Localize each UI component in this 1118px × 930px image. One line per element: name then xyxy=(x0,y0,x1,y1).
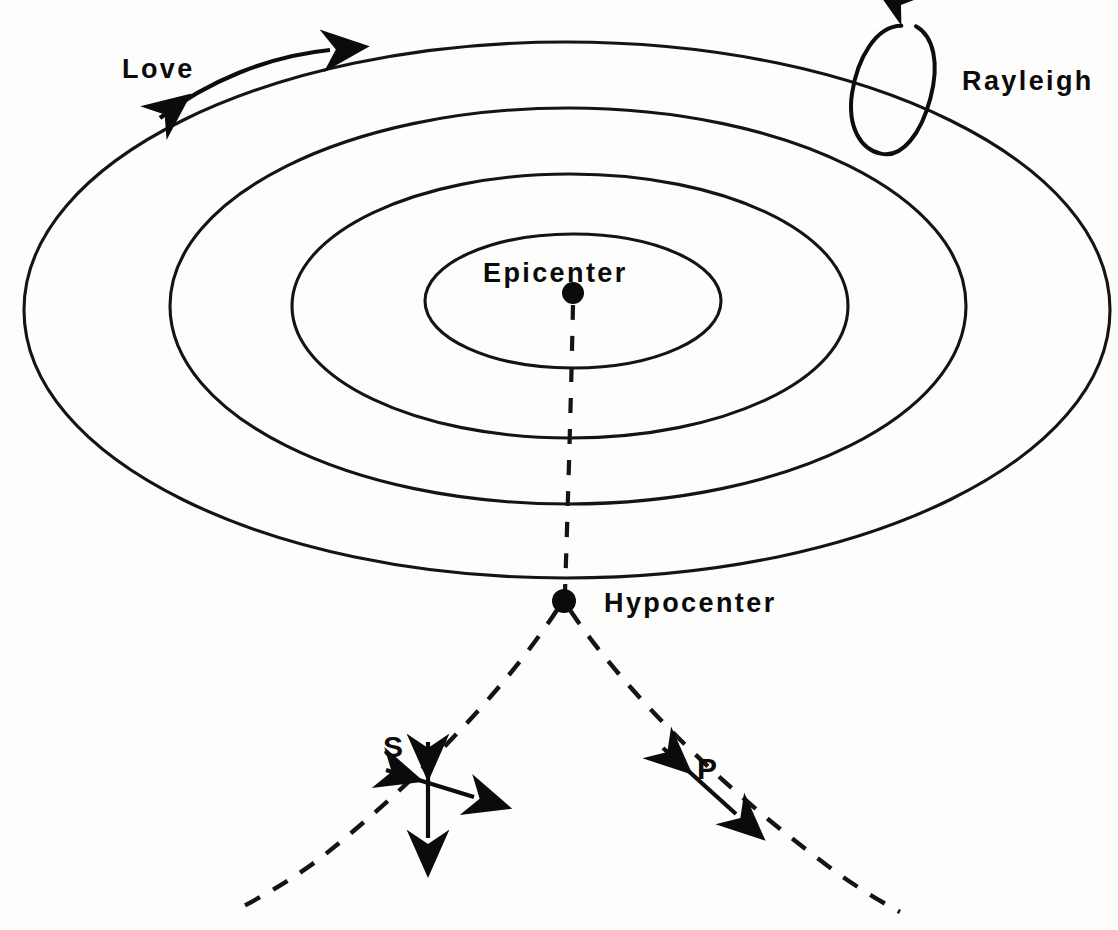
rayleigh-label: Rayleigh xyxy=(962,66,1094,96)
hypocenter-label: Hypocenter xyxy=(604,588,777,618)
epicenter-label: Epicenter xyxy=(483,258,628,288)
seismic-diagram-canvas: Love Rayleigh Epicenter Hypocenter S P xyxy=(0,0,1118,930)
hypocenter-marker-dot xyxy=(552,589,576,613)
epicenter-hypocenter-axis-ray xyxy=(565,305,573,592)
seismic-wave-diagram: Love Rayleigh Epicenter Hypocenter S P xyxy=(0,0,1118,930)
p-wave-ray-path xyxy=(570,610,900,912)
rayleigh-wave-loop-arrow xyxy=(823,0,962,163)
p-wave-label: P xyxy=(697,752,717,785)
s-wave-label: S xyxy=(383,730,403,763)
love-label: Love xyxy=(122,54,195,84)
